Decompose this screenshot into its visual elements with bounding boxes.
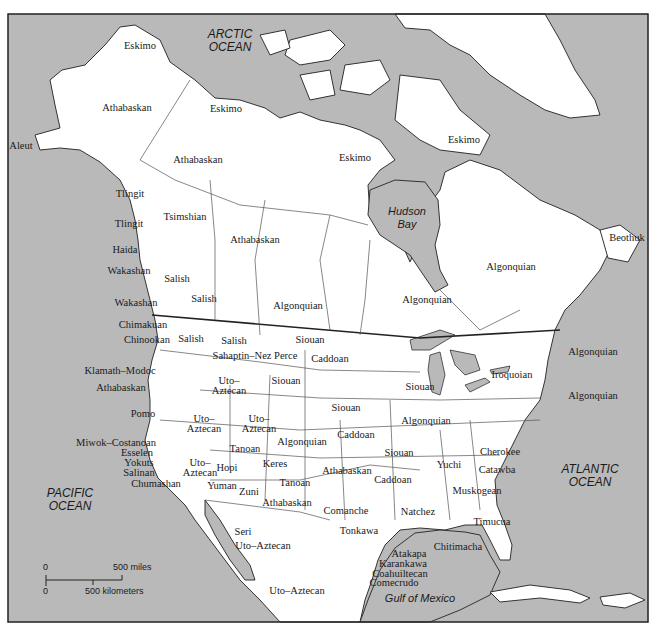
language-label: Algonquian [273,300,323,311]
language-label: Siouan [271,375,300,386]
language-label: Tanoan [280,477,311,488]
language-label: Salish [164,273,190,284]
language-label: Uto–Aztecan [269,585,324,596]
language-label: Algonquian [277,436,327,447]
language-label: Iroquoian [492,369,533,380]
language-label: Uto–Aztecan [235,540,290,551]
native-languages-map: ARCTIC OCEAN PACIFIC OCEAN ATLANTIC OCEA… [0,0,657,632]
language-label: Algonquian [568,346,618,357]
language-label: Aztecan [183,467,217,478]
language-label: Eskimo [339,152,371,163]
language-label: Algonquian [401,415,451,426]
language-label: Athabaskan [102,102,152,113]
language-label: Salish [221,335,247,346]
language-label: Chitimacha [434,541,482,552]
language-label: Cherokee [480,446,520,457]
map-base [0,0,657,632]
scale-zero-km: 0 [43,586,48,596]
language-label: Algonquian [402,294,452,305]
language-label: Chinookan [124,334,170,345]
language-label: Beothuk [609,232,645,243]
language-label: Hopi [217,462,238,473]
language-label: Athabaskan [173,154,223,165]
language-label: Tonkawa [340,525,378,536]
atlantic-ocean-label: ATLANTIC OCEAN [561,463,618,489]
language-label: Muskogean [453,485,502,496]
language-label: Aleut [9,140,32,151]
pacific-ocean-label: PACIFIC OCEAN [47,487,93,513]
language-label: Yuman [207,480,237,491]
language-label: Athabaskan [262,497,312,508]
language-label: Sahaptin–Nez Perce [213,350,298,361]
language-label: Yuchi [437,459,462,470]
language-label: Caddoan [374,474,411,485]
scale-km-label: 500 kilometers [85,586,144,596]
language-label: Comanche [324,505,369,516]
language-label: Algonquian [486,261,536,272]
language-label: Eskimo [448,134,480,145]
language-label: Chimakuan [119,319,167,330]
hudson-bay-label: Hudson Bay [388,205,426,231]
language-label: Keres [263,458,288,469]
language-label: Caddoan [311,353,348,364]
language-label: Catawba [479,464,516,475]
language-label: Wakashan [108,265,151,276]
language-label: Salish [178,333,204,344]
language-label: Siouan [384,447,413,458]
language-label: Tanoan [230,443,261,454]
language-label: Seri [235,526,252,537]
language-label: Athabaskan [96,382,146,393]
language-label: Wakashan [115,297,158,308]
language-label: Timucua [474,516,511,527]
language-label: Comecrudo [370,577,419,588]
gulf-of-mexico-label: Gulf of Mexico [385,592,455,605]
language-label: Caddoan [337,429,374,440]
arctic-ocean-label: ARCTIC OCEAN [208,28,253,54]
language-label: Eskimo [210,103,242,114]
scale-miles-label: 500 miles [113,562,152,572]
language-label: Zuni [239,486,259,497]
language-label: Algonquian [568,390,618,401]
language-label: Athabaskan [230,234,280,245]
language-label: Aztecan [212,385,246,396]
language-label: Tsimshian [163,211,206,222]
language-label: Athabaskan [322,465,372,476]
language-label: Salinan [123,467,155,478]
language-label: Klamath–Modoc [84,365,155,376]
language-label: Tlingit [116,188,145,199]
language-label: Siouan [405,381,434,392]
language-label: Natchez [401,506,435,517]
language-label: Tlingit [115,218,144,229]
language-label: Haida [112,244,137,255]
scale-zero-miles: 0 [43,562,48,572]
language-label: Pomo [131,408,156,419]
language-label: Aztecan [187,423,221,434]
language-label: Siouan [295,334,324,345]
language-label: Eskimo [124,40,156,51]
language-label: Chumashan [131,478,181,489]
language-label: Aztecan [242,423,276,434]
language-label: Salish [191,293,217,304]
language-label: Siouan [331,402,360,413]
